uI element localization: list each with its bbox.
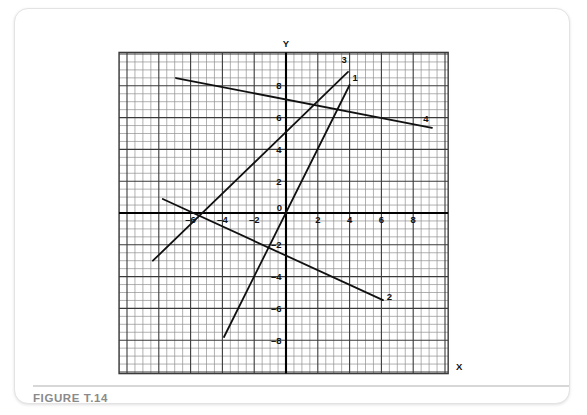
x-tick-label: 4 xyxy=(347,214,353,225)
x-tick-label: 8 xyxy=(411,214,416,225)
data-line-label-1: 1 xyxy=(353,72,359,83)
x-tick-label: 6 xyxy=(379,214,384,225)
coordinate-plane-svg: –6–4–2024688642–2–4–6–8YX1234 xyxy=(0,0,587,415)
data-line-label-3: 3 xyxy=(341,54,346,65)
x-tick-label: –4 xyxy=(217,214,228,225)
y-tick-label: 2 xyxy=(276,176,281,187)
x-axis-title: X xyxy=(456,361,463,372)
figure-plot-area: –6–4–2024688642–2–4–6–8YX1234 xyxy=(0,0,587,415)
data-line-label-2: 2 xyxy=(387,291,392,302)
y-axis-title: Y xyxy=(283,38,290,49)
data-line-label-4: 4 xyxy=(423,113,429,124)
figure-caption: FIGURE T.14 xyxy=(33,392,108,404)
y-tick-label: –4 xyxy=(271,271,282,282)
y-tick-label: –6 xyxy=(271,303,282,314)
y-tick-label: –8 xyxy=(271,335,282,346)
x-tick-label: 2 xyxy=(315,214,320,225)
y-tick-label: 8 xyxy=(276,80,281,91)
x-tick-label: –6 xyxy=(185,214,196,225)
caption-divider xyxy=(33,385,569,387)
y-tick-label: 4 xyxy=(276,144,282,155)
x-tick-label-0: 0 xyxy=(277,202,282,213)
figure-page: –6–4–2024688642–2–4–6–8YX1234 FIGURE T.1… xyxy=(0,0,587,415)
y-tick-label: 6 xyxy=(276,112,281,123)
x-tick-label: –2 xyxy=(249,214,260,225)
